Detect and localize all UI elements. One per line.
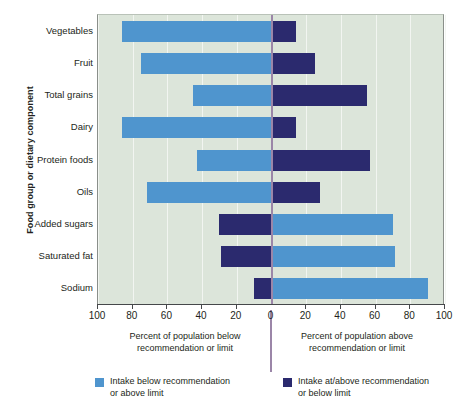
x-axis-tick	[444, 304, 445, 309]
y-axis-label-protein-foods: Protein foods	[10, 154, 93, 165]
y-axis-category-labels: VegetablesFruitTotal grainsDairyProtein …	[10, 14, 93, 304]
x-axis-caption-right: Percent of population above recommendati…	[272, 331, 442, 354]
bar-saturated-fat-left	[221, 246, 271, 267]
x-axis-tick	[132, 304, 133, 309]
y-axis-label-saturated-fat: Saturated fat	[10, 250, 93, 261]
bar-added-sugars-right	[272, 214, 393, 235]
y-axis-label-dairy: Dairy	[10, 121, 93, 132]
x-axis-tick	[409, 304, 410, 309]
x-axis-caption-left: Percent of population below recommendati…	[100, 331, 270, 354]
gridline	[133, 15, 134, 304]
bar-oils-left	[147, 182, 272, 203]
y-axis-label-total-grains: Total grains	[10, 89, 93, 100]
bar-added-sugars-left	[219, 214, 271, 235]
bar-dairy-right	[272, 117, 296, 138]
gridline	[410, 15, 411, 304]
x-axis-tick	[166, 304, 167, 309]
bar-protein-foods-right	[272, 150, 371, 171]
bar-vegetables-left	[122, 21, 271, 42]
bar-fruit-left	[141, 53, 271, 74]
bar-protein-foods-left	[197, 150, 272, 171]
y-axis-label-fruit: Fruit	[10, 57, 93, 68]
y-axis-label-sodium: Sodium	[10, 282, 93, 293]
bar-saturated-fat-right	[272, 246, 395, 267]
legend-label-dark-navy: Intake at/above recommendation or below …	[298, 376, 429, 399]
y-axis-label-vegetables: Vegetables	[10, 25, 93, 36]
x-axis-tick-label: 100	[424, 310, 464, 321]
legend-swatch-dark-navy	[283, 378, 292, 387]
y-axis-label-added-sugars: Added sugars	[10, 218, 93, 229]
x-axis-tick	[201, 304, 202, 309]
bar-total-grains-left	[193, 85, 271, 106]
bar-sodium-right	[272, 278, 428, 299]
legend-entry-below-recommendation: Intake below recommendation or above lim…	[95, 376, 230, 399]
bar-sodium-left	[254, 278, 271, 299]
x-axis-line	[97, 304, 444, 305]
gridline	[98, 15, 99, 304]
legend-swatch-light-blue	[95, 378, 104, 387]
bar-vegetables-right	[272, 21, 296, 42]
x-axis-tick	[340, 304, 341, 309]
x-axis-tick	[305, 304, 306, 309]
bar-oils-right	[272, 182, 321, 203]
x-axis-tick	[97, 304, 98, 309]
bar-total-grains-right	[272, 85, 367, 106]
diverging-bar-chart: Food group or dietary component Vegetabl…	[0, 0, 467, 413]
plot-area	[97, 14, 444, 304]
zero-reference-line	[271, 15, 273, 305]
gridline	[445, 15, 446, 304]
bar-fruit-right	[272, 53, 315, 74]
x-axis-tick	[236, 304, 237, 309]
legend-entry-at-above-recommendation: Intake at/above recommendation or below …	[283, 376, 429, 399]
legend-label-light-blue: Intake below recommendation or above lim…	[110, 376, 230, 399]
bar-dairy-left	[122, 117, 271, 138]
x-axis-tick	[375, 304, 376, 309]
y-axis-label-oils: Oils	[10, 186, 93, 197]
